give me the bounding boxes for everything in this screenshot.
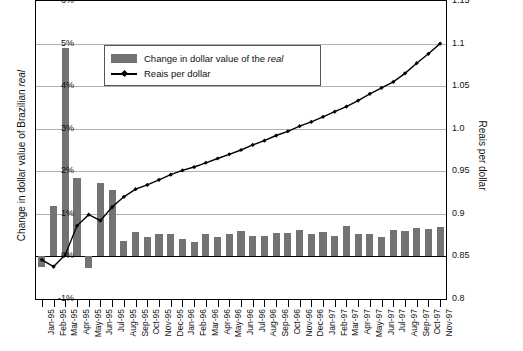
y-tick-label: 5%	[44, 38, 74, 48]
x-tick-label: Sep-95	[140, 309, 150, 336]
line-marker	[204, 161, 208, 165]
y2-tick-label: 1.05	[452, 80, 486, 90]
line-marker	[215, 156, 219, 160]
y2-tick-label: 0.8	[452, 293, 486, 303]
line-marker	[192, 165, 196, 169]
x-tick	[288, 300, 289, 307]
line-marker	[227, 152, 231, 156]
x-tick-label: Jan-95	[46, 309, 56, 335]
x-tick	[54, 300, 55, 307]
x-tick-label: Sep-97	[421, 309, 431, 336]
x-tick	[182, 300, 183, 307]
x-tick-label: Nov-96	[304, 309, 314, 336]
x-tick-label: Apr-95	[81, 309, 91, 335]
x-tick	[147, 300, 148, 307]
y2-tick-label: 1.15	[452, 0, 486, 5]
x-tick-label: Jan-96	[186, 309, 196, 335]
x-tick	[346, 300, 347, 307]
x-tick-label: Feb-95	[58, 309, 68, 336]
x-tick-label: Feb-96	[198, 309, 208, 336]
y2-tick-label: 1.1	[452, 38, 486, 48]
chart-legend: Change in dollar value of the real Reais…	[104, 45, 321, 86]
x-tick	[112, 300, 113, 307]
y2-tick-label: 0.85	[452, 250, 486, 260]
x-tick-label: Jun-97	[386, 309, 396, 335]
line-marker	[274, 133, 278, 137]
y-tick-label: 3%	[44, 123, 74, 133]
y-tick-label: 0%	[44, 250, 74, 260]
line-marker	[251, 143, 255, 147]
x-tick	[323, 300, 324, 307]
x-tick	[428, 300, 429, 307]
x-tick	[253, 300, 254, 307]
x-tick-label: Jan-97	[327, 309, 337, 335]
x-tick-label: Mar-97	[350, 309, 360, 336]
x-tick	[65, 300, 66, 307]
x-tick	[370, 300, 371, 307]
x-tick-label: Mar-95	[69, 309, 79, 336]
legend-line-swatch	[111, 69, 137, 78]
line-marker	[333, 110, 337, 114]
x-tick	[159, 300, 160, 307]
x-tick-label: Jul-95	[116, 309, 126, 332]
x-tick-label: Jun-96	[245, 309, 255, 335]
line-marker	[297, 124, 301, 128]
x-tick-label: May-97	[374, 309, 384, 337]
x-tick	[393, 300, 394, 307]
x-tick-label: May-95	[93, 309, 103, 337]
y2-tick-label: 0.95	[452, 165, 486, 175]
plot-area: Change in dollar value of the real Reais…	[35, 0, 447, 300]
line-marker	[157, 178, 161, 182]
x-tick-label: Jul-96	[257, 309, 267, 332]
x-tick	[218, 300, 219, 307]
y-axis-title-text: Change in dollar value of Brazilian	[16, 87, 27, 242]
x-tick-label: Nov-97	[444, 309, 454, 336]
x-tick-label: Aug-97	[409, 309, 419, 336]
x-tick-label: Aug-96	[268, 309, 278, 336]
x-tick	[100, 300, 101, 307]
x-tick-label: Feb-97	[339, 309, 349, 336]
x-axis: Jan-95Feb-95Mar-95Apr-95May-95Jun-95Jul-…	[35, 300, 447, 351]
line-marker	[180, 168, 184, 172]
legend-item-bars: Change in dollar value of the real	[111, 51, 314, 66]
x-tick-label: Jun-95	[104, 309, 114, 335]
x-tick	[171, 300, 172, 307]
x-tick	[229, 300, 230, 307]
y-tick-label: 4%	[44, 80, 74, 90]
line-marker	[321, 115, 325, 119]
x-tick-label: Apr-97	[362, 309, 372, 335]
x-tick-label: Jul-97	[397, 309, 407, 332]
legend-line-label: Reais per dollar	[144, 68, 211, 79]
y-tick-label: 1%	[44, 208, 74, 218]
x-tick-label: Oct-95	[151, 309, 161, 335]
y-tick-label: 2%	[44, 165, 74, 175]
x-tick-label: Dec-96	[315, 309, 325, 336]
x-tick	[194, 300, 195, 307]
x-tick	[241, 300, 242, 307]
line-marker	[309, 120, 313, 124]
x-tick-label: Apr-96	[222, 309, 232, 335]
legend-bar-label: Change in dollar value of the real	[144, 53, 283, 64]
y-tick-label: 6%	[44, 0, 74, 5]
x-tick-label: Oct-96	[292, 309, 302, 335]
legend-bar-swatch	[111, 54, 137, 63]
x-tick	[136, 300, 137, 307]
x-tick	[358, 300, 359, 307]
x-tick	[440, 300, 441, 307]
x-tick-label: Dec-95	[175, 309, 185, 336]
x-tick-label: Mar-96	[210, 309, 220, 336]
legend-item-line: Reais per dollar	[111, 66, 314, 81]
x-tick	[382, 300, 383, 307]
x-tick	[89, 300, 90, 307]
x-tick	[300, 300, 301, 307]
y2-tick-label: 1.0	[452, 123, 486, 133]
line-marker	[145, 183, 149, 187]
x-tick-label: Oct-97	[432, 309, 442, 335]
x-tick-label: Sep-96	[280, 309, 290, 336]
line-marker	[169, 173, 173, 177]
x-tick	[77, 300, 78, 307]
x-tick-label: Aug-95	[128, 309, 138, 336]
x-tick	[405, 300, 406, 307]
x-tick	[124, 300, 125, 307]
y-axis-title-emphasis: real	[16, 70, 27, 87]
